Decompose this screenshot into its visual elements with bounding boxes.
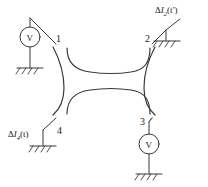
lead-line-terminal-2	[152, 30, 166, 44]
lead-line-terminal-3	[149, 118, 152, 122]
ground-1-hatch-d	[34, 68, 38, 74]
ground-2-hatch-c	[165, 41, 169, 47]
ground-4-hatch-d	[47, 146, 51, 152]
conductor-edge-bottom-channel	[67, 89, 150, 115]
lead-line-terminal-1	[30, 18, 56, 44]
ground-3-hatch-d	[153, 174, 157, 180]
source-2-diagonal-lead	[166, 19, 180, 30]
ground-2-hatch-d	[171, 41, 175, 47]
ground-4-hatch-c	[41, 146, 45, 152]
node-label-2: 2	[145, 34, 150, 44]
source-2-argument: (t′)	[167, 5, 177, 15]
node-label-1: 1	[56, 34, 61, 44]
conductor-edge-top-channel	[67, 48, 150, 74]
current-source-2-label: ΔI2(t′)	[155, 6, 178, 17]
ground-4-hatch-a	[29, 146, 33, 152]
ground-3-hatch-a	[135, 174, 139, 180]
current-source-4-label: ΔI4(t)	[8, 130, 29, 141]
circuit-figure: V V 1 2 3 4 ΔI2(t′) ΔI4(t)	[0, 0, 208, 187]
ground-2-hatch-b	[159, 41, 163, 47]
conductor-edge-upper-left	[53, 47, 64, 115]
voltmeter-3-label: V	[146, 140, 153, 150]
ground-1-hatch-c	[28, 68, 32, 74]
ground-1-hatch-a	[16, 68, 20, 74]
circuit-diagram-svg	[0, 0, 208, 187]
voltmeter-1-label: V	[27, 33, 34, 43]
node-label-4: 4	[57, 126, 62, 136]
ground-3-hatch-b	[141, 174, 145, 180]
node-label-3: 3	[140, 117, 145, 127]
ground-1-hatch-b	[22, 68, 26, 74]
ground-4-hatch-b	[35, 146, 39, 152]
source-4-argument: (t)	[20, 129, 29, 139]
ground-3-hatch-c	[147, 174, 151, 180]
lead-line-terminal-4	[43, 118, 56, 130]
